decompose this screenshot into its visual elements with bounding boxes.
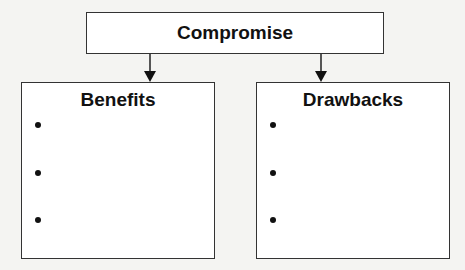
bullet-point — [35, 170, 41, 176]
arrow-head-left-icon — [144, 71, 156, 82]
drawbacks-box: Drawbacks — [256, 82, 450, 259]
arrow-head-right-icon — [315, 71, 327, 82]
benefits-box: Benefits — [21, 82, 215, 259]
bullet-point — [35, 122, 41, 128]
bullet-point — [270, 122, 276, 128]
bullet-point — [270, 217, 276, 223]
bullet-point — [35, 217, 41, 223]
benefits-title: Benefits — [22, 89, 214, 111]
compromise-title: Compromise — [177, 22, 293, 44]
bullet-point — [270, 170, 276, 176]
drawbacks-title: Drawbacks — [257, 89, 449, 111]
compromise-box: Compromise — [86, 12, 384, 54]
